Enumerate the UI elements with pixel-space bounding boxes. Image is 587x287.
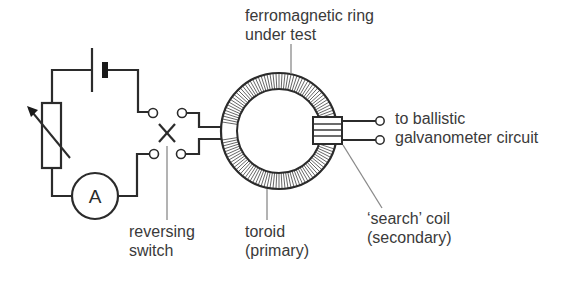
switch-label: reversing switch <box>129 222 195 260</box>
ring-label-line2: under test <box>245 25 374 44</box>
battery-icon <box>92 48 108 92</box>
switch-label-line1: reversing <box>129 222 195 241</box>
ring-label: ferromagnetic ring under test <box>245 6 374 44</box>
search-coil-label-line2: (secondary) <box>367 228 451 247</box>
galvanometer-label-line1: to ballistic <box>395 109 538 128</box>
toroid-label: toroid (primary) <box>245 222 309 260</box>
switch-label-line2: switch <box>129 241 195 260</box>
toroid-label-line1: toroid <box>245 222 309 241</box>
galvanometer-leads <box>342 117 384 144</box>
leader-lines <box>167 44 382 220</box>
ammeter-icon: A <box>72 173 118 219</box>
galvanometer-label: to ballistic galvanometer circuit <box>395 109 538 147</box>
ammeter-symbol: A <box>89 186 102 207</box>
toroid-label-line2: (primary) <box>245 241 309 260</box>
rheostat-icon <box>27 103 70 168</box>
switch-to-ring-wires <box>185 113 222 154</box>
ring-label-line1: ferromagnetic ring <box>245 6 374 25</box>
search-coil-label: ‘search’ coil (secondary) <box>367 209 451 247</box>
galvanometer-label-line2: galvanometer circuit <box>395 128 538 147</box>
search-coil-label-line1: ‘search’ coil <box>367 209 451 228</box>
coil-icon <box>313 117 342 144</box>
